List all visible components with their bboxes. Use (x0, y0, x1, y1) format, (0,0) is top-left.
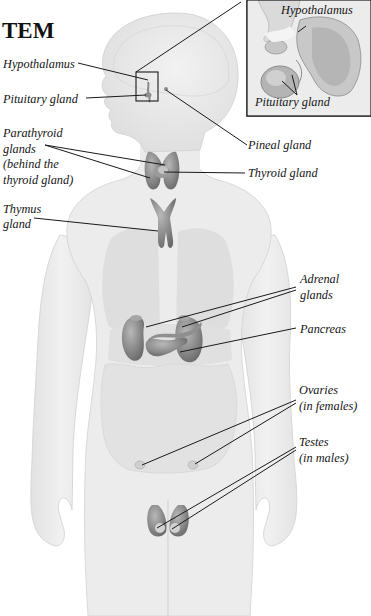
inset-label-pituitary-gland: Pituitary gland (255, 95, 330, 109)
endocrine-system-diagram: TEM Hypothalamus Pituitary gland Pineal … (0, 0, 371, 616)
label-pituitary-gland: Pituitary gland (3, 92, 78, 106)
label-thyroid-gland: Thyroid gland (248, 166, 318, 180)
ovary-right (188, 461, 198, 469)
label-hypothalamus: Hypothalamus (3, 57, 75, 71)
label-pineal-gland: Pineal gland (248, 138, 311, 152)
ovary-left (135, 461, 145, 469)
diagram-title: TEM (2, 19, 54, 42)
label-pancreas: Pancreas (300, 322, 346, 336)
inset-label-hypothalamus: Hypothalamus (281, 3, 353, 17)
